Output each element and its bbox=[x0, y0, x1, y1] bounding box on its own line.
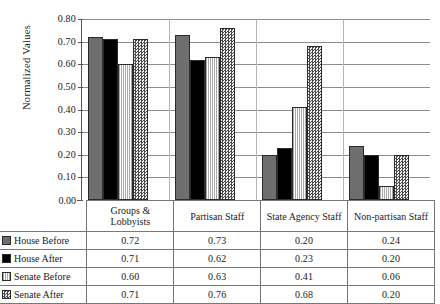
y-axis-tick-labels: 0.800.700.600.500.400.300.200.10 bbox=[36, 14, 76, 206]
bar-group bbox=[343, 19, 430, 200]
legend-swatch-icon bbox=[2, 254, 11, 263]
bar bbox=[349, 146, 364, 200]
table-column-header-line: Lobbyists bbox=[89, 216, 171, 227]
table-cell-value: 0.68 bbox=[261, 286, 348, 304]
legend-label: Senate After bbox=[14, 289, 64, 300]
table-column-header-line: State Agency Staff bbox=[263, 211, 345, 222]
table-cell-value: 0.71 bbox=[87, 286, 174, 304]
table-cell-value: 0.63 bbox=[174, 268, 261, 286]
plot-area bbox=[81, 19, 430, 200]
bar bbox=[175, 35, 190, 200]
legend-item[interactable]: Senate After bbox=[0, 286, 87, 304]
table-cell-value: 0.20 bbox=[348, 250, 435, 268]
table-cell-value: 0.23 bbox=[261, 250, 348, 268]
bar bbox=[394, 155, 409, 200]
legend-label: House After bbox=[14, 253, 63, 264]
legend-item[interactable]: House After bbox=[0, 250, 87, 268]
legend-item[interactable]: Senate Before bbox=[0, 268, 87, 286]
table-column-header: Partisan Staff bbox=[174, 201, 261, 232]
table-row: House Before0.720.730.200.24 bbox=[0, 232, 435, 250]
table-column-header: Groups &Lobbyists bbox=[87, 201, 174, 232]
legend-swatch-icon bbox=[2, 290, 11, 299]
data-table: Groups &LobbyistsPartisan StaffState Age… bbox=[0, 200, 435, 304]
table-column-header: State Agency Staff bbox=[261, 201, 348, 232]
bar bbox=[118, 64, 133, 200]
bar bbox=[307, 46, 322, 200]
bar bbox=[364, 155, 379, 200]
bar bbox=[103, 39, 118, 200]
bar bbox=[292, 107, 307, 200]
bar-groups bbox=[82, 19, 430, 200]
table-row: Senate After0.710.760.680.20 bbox=[0, 286, 435, 304]
bar bbox=[205, 57, 220, 200]
y-axis-tick-label: 0.30 bbox=[36, 127, 76, 137]
table-cell-value: 0.06 bbox=[348, 268, 435, 286]
table-cell-value: 0.62 bbox=[174, 250, 261, 268]
table-cell-value: 0.20 bbox=[348, 286, 435, 304]
bar bbox=[379, 186, 394, 200]
bar bbox=[262, 155, 277, 200]
table-cell-value: 0.72 bbox=[87, 232, 174, 250]
bar bbox=[220, 28, 235, 200]
table-column-header-line: Partisan Staff bbox=[176, 211, 258, 222]
table-column-header: Non-partisan Staff bbox=[348, 201, 435, 232]
table-column-header-line: Groups & bbox=[89, 205, 171, 216]
y-axis-tick-label: 0.70 bbox=[36, 37, 76, 47]
table-cell-value: 0.20 bbox=[261, 232, 348, 250]
y-axis-tick-label: 0.20 bbox=[36, 150, 76, 160]
table-cell-value: 0.60 bbox=[87, 268, 174, 286]
table-cell-value: 0.24 bbox=[348, 232, 435, 250]
table-column-header-line: Non-partisan Staff bbox=[350, 211, 432, 222]
legend-swatch-icon bbox=[2, 272, 11, 281]
y-axis-tick-label: 0.80 bbox=[36, 14, 76, 24]
bar-group bbox=[256, 19, 343, 200]
table-row: Senate Before0.600.630.410.06 bbox=[0, 268, 435, 286]
y-axis-tick-label: 0.40 bbox=[36, 105, 76, 115]
bar bbox=[190, 60, 205, 200]
bar-group bbox=[169, 19, 256, 200]
table-cell-value: 0.76 bbox=[174, 286, 261, 304]
legend-label: House Before bbox=[14, 235, 69, 246]
bar bbox=[277, 148, 292, 200]
y-axis-tick-label: 0.50 bbox=[36, 82, 76, 92]
legend-swatch-icon bbox=[2, 236, 11, 245]
table-cell-value: 0.71 bbox=[87, 250, 174, 268]
bar-group bbox=[82, 19, 169, 200]
y-axis-tick-label: 0.60 bbox=[36, 59, 76, 69]
table-body: House Before0.720.730.200.24House After0… bbox=[0, 232, 435, 304]
legend-label: Senate Before bbox=[14, 271, 70, 282]
bar bbox=[133, 39, 148, 200]
table-header-row: Groups &LobbyistsPartisan StaffState Age… bbox=[0, 201, 435, 232]
table-row: House After0.710.620.230.20 bbox=[0, 250, 435, 268]
y-axis-tick-label: 0.10 bbox=[36, 172, 76, 182]
bar bbox=[88, 37, 103, 200]
legend-item[interactable]: House Before bbox=[0, 232, 87, 250]
table-corner-cell bbox=[0, 201, 87, 232]
table-cell-value: 0.73 bbox=[174, 232, 261, 250]
y-axis-title: Normalized Values bbox=[21, 0, 32, 143]
table-cell-value: 0.41 bbox=[261, 268, 348, 286]
